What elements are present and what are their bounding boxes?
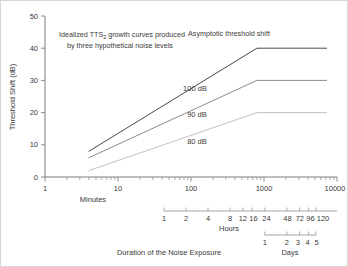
caption-text-a: Idealized TTS	[59, 30, 103, 39]
hours-label-16: 16	[249, 214, 257, 223]
y-tick-label-30: 30	[30, 76, 38, 85]
days-label-3: 3	[296, 238, 300, 247]
hours-label-8: 8	[228, 214, 232, 223]
figure-container: 50 40 30 20 10 0 Threshold Shift (dB)	[0, 0, 348, 267]
curve-label-80db: 80 dB	[187, 137, 207, 146]
curve-100db	[89, 48, 327, 151]
asymptotic-threshold-note: Asymptotic threshold shift	[188, 29, 270, 38]
hours-label-48: 48	[283, 214, 291, 223]
y-axis: 50 40 30 20 10 0 Threshold Shift (dB)	[8, 12, 45, 182]
x-tick-label-100: 100	[185, 184, 198, 193]
curves-group	[89, 48, 327, 170]
caption-text-b: growth curves produced	[106, 30, 185, 39]
days-label-2: 2	[285, 238, 289, 247]
y-axis-title: Threshold Shift (dB)	[8, 63, 17, 130]
caption-block: Idealized TTS2 growth curves produced by…	[59, 30, 185, 50]
hours-label-2: 2	[184, 214, 188, 223]
chart-svg: 50 40 30 20 10 0 Threshold Shift (dB)	[1, 1, 348, 267]
x-axis-hours: 1 2 4 8 12 16 24 48 72 96 120 Hours	[162, 208, 337, 234]
x-tick-label-10: 10	[114, 184, 122, 193]
x-axis-days: 1 2 3 4 5 Days	[263, 232, 319, 258]
x-axis-label-hours: Hours	[219, 224, 239, 233]
y-tick-label-0: 0	[34, 173, 38, 182]
days-label-5: 5	[314, 238, 318, 247]
hours-label-12: 12	[239, 214, 247, 223]
curve-label-90db: 90 dB	[187, 110, 207, 119]
y-tick-label-40: 40	[30, 44, 38, 53]
hours-label-24: 24	[262, 214, 270, 223]
x-tick-label-1000: 1000	[256, 184, 273, 193]
y-tick-label-10: 10	[30, 140, 38, 149]
curve-label-100db: 100 dB	[183, 84, 207, 93]
x-axis-minutes: 1 10 100 1000 10000 Minutes	[43, 177, 346, 204]
hours-label-96: 96	[306, 214, 314, 223]
x-tick-label-10000: 10000	[325, 184, 346, 193]
x-axis-title: Duration of the Noise Exposure	[117, 248, 221, 257]
hours-label-1: 1	[162, 214, 166, 223]
x-axis-label-days: Days	[281, 248, 298, 257]
days-label-4: 4	[305, 238, 309, 247]
caption-line-2: by three hypothetical noise levels	[67, 41, 173, 50]
hours-label-4: 4	[206, 214, 210, 223]
hours-label-72: 72	[296, 214, 304, 223]
days-label-1: 1	[263, 238, 267, 247]
curve-90db	[89, 80, 327, 157]
x-axis-label-minutes: Minutes	[80, 195, 107, 204]
caption-line-1: Idealized TTS2 growth curves produced	[59, 30, 185, 40]
x-tick-label-1: 1	[43, 184, 47, 193]
y-tick-label-20: 20	[30, 108, 38, 117]
y-tick-label-50: 50	[30, 12, 38, 21]
hours-label-120: 120	[317, 214, 330, 223]
